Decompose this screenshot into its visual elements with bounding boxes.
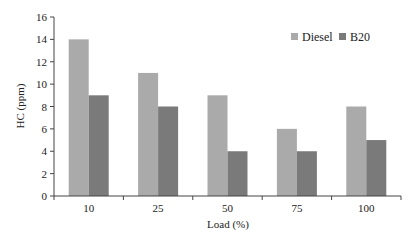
y-tick-label: 2 xyxy=(42,168,48,180)
bar-diesel-100 xyxy=(346,107,366,197)
legend-swatch-diesel xyxy=(291,33,298,40)
bar-diesel-50 xyxy=(208,95,228,196)
y-tick-label: 10 xyxy=(36,78,48,90)
bar-b20-10 xyxy=(89,95,109,196)
legend-swatch-b20 xyxy=(339,33,346,40)
bar-b20-100 xyxy=(366,140,386,196)
y-tick-label: 6 xyxy=(42,123,48,135)
bar-b20-25 xyxy=(158,107,178,197)
bar-b20-50 xyxy=(228,151,248,196)
y-tick-label: 4 xyxy=(42,145,48,157)
legend: DieselB20 xyxy=(291,30,370,44)
bar-chart: 0246810121416 10255075100 HC (ppm) Load … xyxy=(0,0,415,242)
bar-diesel-10 xyxy=(69,39,89,196)
bars-group xyxy=(69,39,387,196)
x-tick-label: 100 xyxy=(358,202,375,214)
x-tick-label: 10 xyxy=(83,202,95,214)
y-tick-label: 8 xyxy=(42,101,48,113)
y-axis: 0246810121416 xyxy=(36,11,54,202)
legend-label-b20: B20 xyxy=(350,30,370,44)
x-tick-label: 50 xyxy=(222,202,234,214)
x-axis-title: Load (%) xyxy=(207,218,249,231)
y-tick-label: 14 xyxy=(36,33,48,45)
x-axis: 10255075100 xyxy=(54,196,401,214)
y-tick-label: 0 xyxy=(42,190,48,202)
bar-diesel-25 xyxy=(138,73,158,196)
y-axis-title: HC (ppm) xyxy=(14,83,27,128)
bar-b20-75 xyxy=(297,151,317,196)
y-tick-label: 16 xyxy=(36,11,48,23)
bar-diesel-75 xyxy=(277,129,297,196)
x-tick-label: 25 xyxy=(153,202,165,214)
legend-label-diesel: Diesel xyxy=(302,30,333,44)
y-tick-label: 12 xyxy=(36,56,47,68)
x-tick-label: 75 xyxy=(291,202,303,214)
